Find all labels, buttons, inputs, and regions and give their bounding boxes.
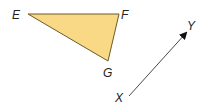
- triangle-efg: [28, 14, 119, 61]
- vertex-label-f: F: [121, 8, 129, 22]
- vector-xy-arrow: [129, 33, 186, 96]
- point-label-y: Y: [187, 19, 196, 33]
- point-label-x: X: [114, 91, 124, 105]
- vertex-label-g: G: [103, 66, 112, 80]
- diagram-canvas: E F G X Y: [0, 0, 204, 105]
- vertex-label-e: E: [12, 8, 21, 22]
